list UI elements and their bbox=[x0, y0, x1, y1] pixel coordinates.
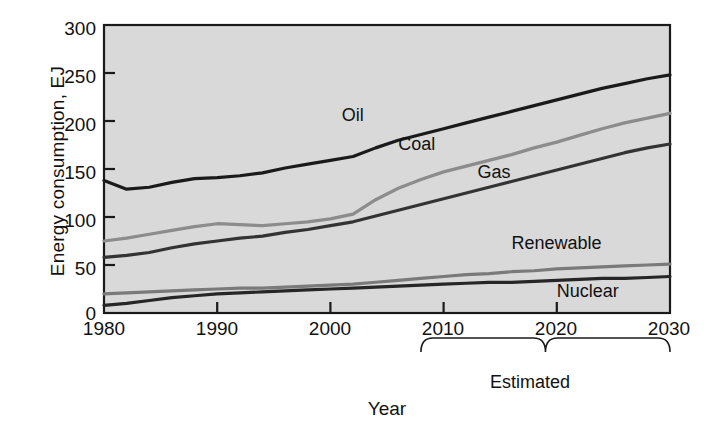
y-tick-label: 300 bbox=[36, 18, 96, 40]
estimated-annotation-label: Estimated bbox=[430, 372, 630, 393]
y-tick-label: 250 bbox=[36, 66, 96, 88]
series-label-gas: Gas bbox=[478, 162, 511, 183]
x-axis-title: Year bbox=[104, 398, 670, 420]
series-label-nuclear: Nuclear bbox=[557, 281, 619, 302]
x-tick-label: 2030 bbox=[629, 318, 709, 340]
series-label-renewable: Renewable bbox=[512, 233, 602, 254]
y-tick-label-group: 300 250 200 150 100 50 0 bbox=[36, 0, 96, 441]
series-label-coal: Coal bbox=[398, 134, 435, 155]
energy-consumption-chart: Energy consumption, EJ 300 250 200 150 1… bbox=[0, 0, 714, 441]
estimated-brace bbox=[421, 338, 670, 352]
y-tick-label: 50 bbox=[36, 258, 96, 280]
x-tick-label: 2000 bbox=[290, 318, 370, 340]
y-tick-label: 100 bbox=[36, 210, 96, 232]
x-tick-label: 2010 bbox=[403, 318, 483, 340]
series-label-oil: Oil bbox=[342, 105, 364, 126]
plot-background bbox=[104, 25, 670, 313]
x-tick-label: 1980 bbox=[64, 318, 144, 340]
y-tick-label: 200 bbox=[36, 114, 96, 136]
x-tick-label: 2020 bbox=[516, 318, 596, 340]
x-tick-label: 1990 bbox=[177, 318, 257, 340]
y-tick-label: 150 bbox=[36, 162, 96, 184]
